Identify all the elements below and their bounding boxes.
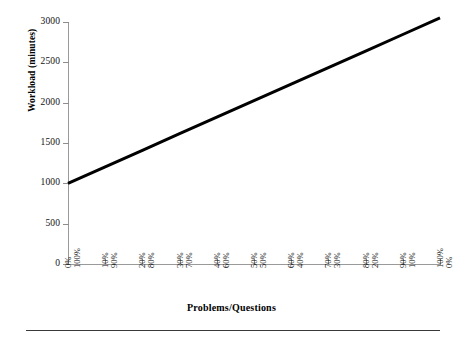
y-tick-label-text: 1500 xyxy=(0,138,60,148)
x-tick-label-descending: 50% xyxy=(259,252,268,268)
x-tick-label-descending: 0% xyxy=(445,257,454,268)
y-tick-label-text: 1000 xyxy=(0,178,60,188)
y-tick-mark xyxy=(63,22,69,23)
x-tick-label-descending: 80% xyxy=(147,252,156,268)
y-tick-label: 3000 xyxy=(0,17,60,27)
data-series-workload xyxy=(68,18,440,183)
x-tick-label-descending: 40% xyxy=(296,252,305,268)
y-tick-label: 1000 xyxy=(0,178,60,188)
y-tick-label: 1500 xyxy=(0,138,60,148)
y-tick-mark xyxy=(63,224,69,225)
y-tick-label-text: 3000 xyxy=(0,17,60,27)
y-tick-label: 500 xyxy=(0,219,60,229)
x-tick-label-descending: 90% xyxy=(110,252,119,268)
y-tick-label: 0 xyxy=(0,259,60,269)
footer-rule xyxy=(26,330,440,331)
x-tick-label-descending: 60% xyxy=(222,252,231,268)
y-tick-label-text: 500 xyxy=(0,219,60,229)
x-tick-label-descending: 100% xyxy=(73,248,82,268)
y-tick-mark xyxy=(63,103,69,104)
x-tick-label-descending: 30% xyxy=(333,252,342,268)
x-tick-label-descending: 10% xyxy=(408,252,417,268)
x-tick-label-descending: 20% xyxy=(371,252,380,268)
plot-area xyxy=(0,0,463,339)
x-tick-label-descending: 70% xyxy=(185,252,194,268)
x-axis-title: Problems/Questions xyxy=(0,302,463,313)
chart-figure: 050010001500200025003000 0%100%10%90%20%… xyxy=(0,0,463,339)
y-tick-mark xyxy=(63,183,69,184)
y-tick-label-text: 0 xyxy=(0,259,60,269)
y-tick-mark xyxy=(63,143,69,144)
y-axis-title: Workload (minutes) xyxy=(27,29,37,112)
y-tick-mark xyxy=(63,62,69,63)
